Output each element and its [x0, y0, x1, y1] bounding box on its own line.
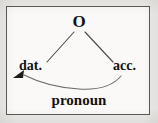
node-label-dative: dat.	[19, 59, 42, 73]
figure-screenshot: O dat. acc. pronoun	[0, 0, 158, 123]
arc-label-pronoun: pronoun	[0, 93, 158, 108]
node-label-accusative: acc.	[113, 59, 136, 73]
node-label-top: O	[0, 13, 158, 30]
